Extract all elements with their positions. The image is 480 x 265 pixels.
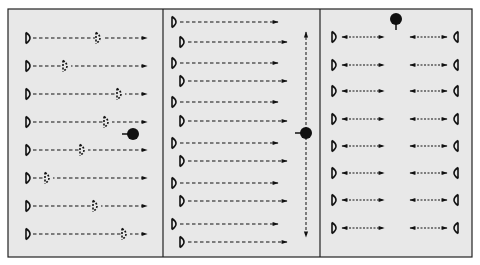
three-panel-diagram (0, 0, 480, 265)
frame (8, 9, 472, 257)
